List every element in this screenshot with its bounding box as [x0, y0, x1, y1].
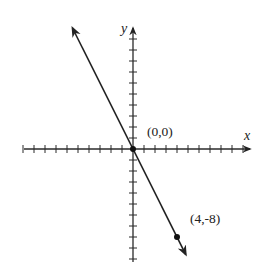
origin-label: (0,0)	[147, 124, 173, 139]
point-label: (4,-8)	[190, 211, 220, 226]
x-axis-label: x	[243, 128, 251, 143]
line-y-equals-neg2x	[73, 28, 186, 255]
y-axis-label: y	[119, 21, 128, 36]
coordinate-plane: x y (0,0) (4,-8)	[0, 0, 264, 270]
point-4-neg8	[174, 234, 180, 240]
origin-point	[130, 146, 136, 152]
